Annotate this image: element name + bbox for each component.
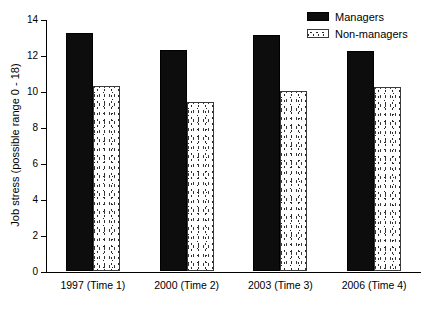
x-axis-tick-label: 2006 (Time 4) [314, 278, 433, 292]
y-axis-tick-label: 6 [32, 157, 38, 170]
plot-area: 02468101214 1997 (Time 1)2000 (Time 2)20… [46, 20, 421, 272]
x-axis-line [46, 272, 421, 273]
bar-non-managers [280, 91, 307, 271]
y-axis-tick-label: 10 [27, 85, 38, 98]
legend-item-managers: Managers [307, 9, 431, 24]
legend-label-managers: Managers [335, 10, 384, 24]
y-axis-tick-label: 14 [27, 13, 38, 26]
bar-group [66, 19, 120, 271]
bar-managers [253, 35, 280, 271]
bar-group [347, 19, 401, 271]
bar-group [253, 19, 307, 271]
y-axis-tick: 12 [41, 56, 46, 57]
legend-item-non-managers: Non-managers [307, 26, 431, 41]
bar-non-managers [187, 102, 214, 271]
y-axis-tick: 2 [41, 236, 46, 237]
bar-non-managers [374, 87, 401, 271]
y-axis-tick: 0 [41, 272, 46, 273]
y-axis-tick-label: 0 [32, 265, 38, 278]
bar-managers [66, 33, 93, 271]
legend-swatch-managers-icon [307, 12, 329, 21]
bar-managers [347, 51, 374, 271]
y-axis-line [46, 20, 47, 273]
y-axis-tick: 8 [41, 128, 46, 129]
y-axis-tick: 6 [41, 164, 46, 165]
legend-swatch-non-managers-icon [307, 29, 329, 38]
bar-managers [160, 50, 187, 271]
y-axis-title: Job stress (possible range 0 - 18) [6, 0, 24, 290]
y-axis-tick-label: 2 [32, 229, 38, 242]
legend-label-non-managers: Non-managers [335, 27, 408, 41]
y-axis-tick-label: 8 [32, 121, 38, 134]
chart-legend: Managers Non-managers [307, 9, 431, 43]
bar-non-managers [93, 86, 120, 271]
bar-group [160, 19, 214, 271]
y-axis-tick-label: 12 [27, 49, 38, 62]
y-axis-tick: 4 [41, 200, 46, 201]
y-axis-tick: 10 [41, 92, 46, 93]
y-axis-tick-label: 4 [32, 193, 38, 206]
y-axis-tick: 14 [41, 20, 46, 21]
bar-chart-figure: Job stress (possible range 0 - 18) 02468… [0, 0, 433, 310]
